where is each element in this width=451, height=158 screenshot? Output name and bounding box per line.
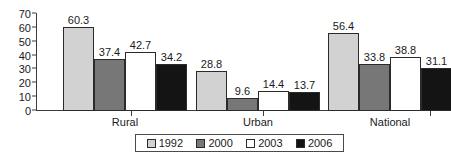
bar-chart: 010203040506070 60.337.442.734.228.89.61… [0,0,451,158]
y-axis-tick-mark [32,68,36,69]
bar-value-label: 28.8 [201,59,222,70]
plot-area: 010203040506070 60.337.442.734.228.89.61… [36,14,430,111]
y-axis-tick-mark [32,13,36,14]
legend-item: 2003 [246,138,282,149]
legend-item-label: 2003 [258,138,282,149]
bar [258,91,289,111]
legend-swatch-icon [246,139,255,148]
bar-value-label: 38.8 [395,45,416,56]
legend-item-label: 2000 [208,138,232,149]
legend-item: 2006 [296,138,332,149]
y-axis-tick-label: 10 [19,92,36,103]
axis-separator-tick [430,111,431,116]
bar [390,57,421,111]
bar-value-label: 42.7 [130,40,151,51]
legend-swatch-icon [296,139,305,148]
legend-item: 1992 [147,138,183,149]
y-axis-tick-label: 30 [19,64,36,75]
y-axis-tick-label: 40 [19,50,36,61]
y-axis-tick-mark [32,26,36,27]
bar [359,64,390,111]
y-axis-tick-label: 70 [19,9,36,20]
y-axis-tick-mark [32,82,36,83]
bar-value-label: 56.4 [333,21,354,32]
bar-value-label: 9.6 [235,86,250,97]
bar-value-label: 31.1 [426,56,447,67]
y-axis-tick-label: 50 [19,36,36,47]
bar [328,33,359,111]
legend-swatch-icon [147,139,156,148]
bar-value-label: 60.3 [68,15,89,26]
y-axis-tick-label: 20 [19,78,36,89]
y-axis-tick-mark [32,96,36,97]
legend-item-label: 1992 [159,138,183,149]
bar-value-label: 13.7 [294,80,315,91]
legend-item: 2000 [196,138,232,149]
bar [196,71,227,111]
bar-value-label: 14.4 [263,79,284,90]
bar [289,92,320,111]
y-axis-tick-mark [32,54,36,55]
legend-swatch-icon [196,139,205,148]
bar [63,27,94,111]
category-label: National [370,117,410,128]
category-label: Rural [112,117,138,128]
bar-value-label: 37.4 [99,47,120,58]
bar [125,52,156,111]
y-axis-tick-label: 60 [19,22,36,33]
y-axis-tick-label: 0 [25,106,36,117]
bar [156,64,187,111]
bar-value-label: 34.2 [161,52,182,63]
category-label: Urban [243,117,273,128]
chart-legend: 1992 2000 2003 2006 [135,134,344,152]
bar-value-label: 33.8 [364,52,385,63]
bar [94,59,125,111]
bar [227,98,258,111]
bar [421,68,451,111]
y-axis-tick-mark [32,40,36,41]
legend-item-label: 2006 [308,138,332,149]
y-axis-tick-mark [32,110,36,111]
